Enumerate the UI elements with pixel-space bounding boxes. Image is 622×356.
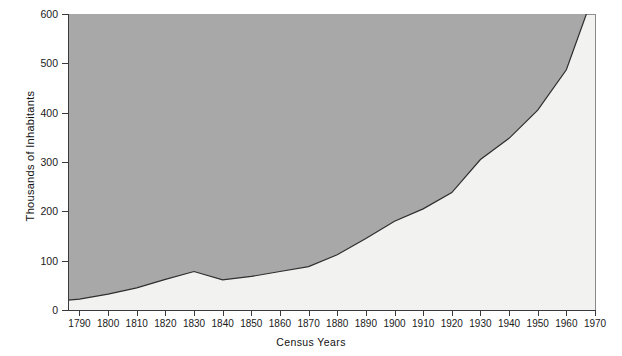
y-tick-600 (62, 14, 69, 15)
x-tick-label-1970: 1970 (575, 319, 615, 329)
x-tick-1790 (79, 310, 80, 316)
x-tick-1910 (423, 310, 424, 316)
area-chart-svg (68, 14, 595, 310)
y-tick-400 (62, 113, 69, 114)
right-border-line (595, 14, 596, 311)
x-tick-1810 (137, 310, 138, 316)
x-axis-title: Census Years (0, 336, 622, 348)
y-tick-500 (62, 63, 69, 64)
x-tick-1930 (480, 310, 481, 316)
y-tick-200 (62, 211, 69, 212)
x-tick-1840 (223, 310, 224, 316)
y-axis-title: Thousands of Inhabitants (24, 56, 36, 256)
x-tick-1890 (366, 310, 367, 316)
x-axis-line (68, 310, 596, 311)
y-tick-label-100: 100 (24, 256, 58, 267)
x-tick-1870 (309, 310, 310, 316)
x-tick-1920 (452, 310, 453, 316)
x-tick-1860 (280, 310, 281, 316)
x-tick-1830 (194, 310, 195, 316)
x-tick-1970 (595, 310, 596, 316)
x-tick-1940 (509, 310, 510, 316)
y-tick-300 (62, 162, 69, 163)
x-tick-1900 (395, 310, 396, 316)
x-tick-1850 (251, 310, 252, 316)
x-tick-1800 (108, 310, 109, 316)
y-tick-0 (62, 310, 69, 311)
x-tick-1880 (337, 310, 338, 316)
x-tick-1960 (566, 310, 567, 316)
x-tick-1950 (538, 310, 539, 316)
y-tick-label-0: 0 (24, 305, 58, 316)
y-tick-100 (62, 261, 69, 262)
x-tick-1820 (165, 310, 166, 316)
chart-figure: 0100200300400500600 17901800181018201830… (0, 0, 622, 356)
y-tick-label-600: 600 (24, 9, 58, 20)
plot-area (68, 14, 595, 310)
